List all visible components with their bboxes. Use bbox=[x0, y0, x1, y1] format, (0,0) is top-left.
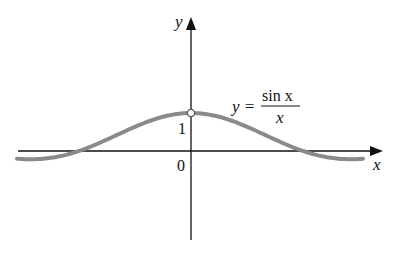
y-axis-arrow-icon bbox=[186, 17, 196, 30]
y-axis-label: y bbox=[173, 12, 183, 31]
x-axis-label: x bbox=[372, 155, 381, 174]
open-circle-hole bbox=[187, 109, 194, 116]
function-denominator: x bbox=[275, 108, 284, 127]
origin-label: 0 bbox=[177, 157, 185, 174]
sinc-chart: y x 0 1 y = sin x x bbox=[0, 0, 399, 262]
function-lhs: y = bbox=[230, 97, 255, 116]
sinc-curve bbox=[17, 113, 363, 159]
y-one-tick-label: 1 bbox=[178, 120, 186, 137]
function-numerator: sin x bbox=[262, 87, 293, 104]
